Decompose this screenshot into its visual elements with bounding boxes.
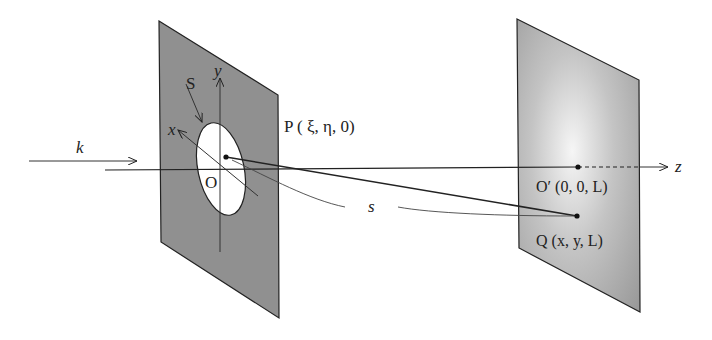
label-x-axis: x bbox=[167, 120, 176, 139]
label-z-axis: z bbox=[674, 157, 682, 176]
diffraction-diagram: k S y x O P ( ξ, η, 0) s O′ (0, 0, L) Q … bbox=[0, 0, 712, 340]
label-distance-s: s bbox=[368, 197, 375, 216]
label-origin: O bbox=[205, 173, 217, 192]
label-point-q: Q (x, y, L) bbox=[536, 232, 603, 250]
label-point-p: P ( ξ, η, 0) bbox=[284, 117, 355, 136]
point-o-prime bbox=[575, 164, 580, 169]
point-p bbox=[223, 154, 228, 159]
label-o-prime: O′ (0, 0, L) bbox=[536, 178, 607, 196]
label-s-aperture: S bbox=[186, 74, 195, 93]
label-y-axis: y bbox=[212, 61, 222, 80]
label-k: k bbox=[76, 138, 84, 157]
point-q bbox=[574, 213, 579, 218]
